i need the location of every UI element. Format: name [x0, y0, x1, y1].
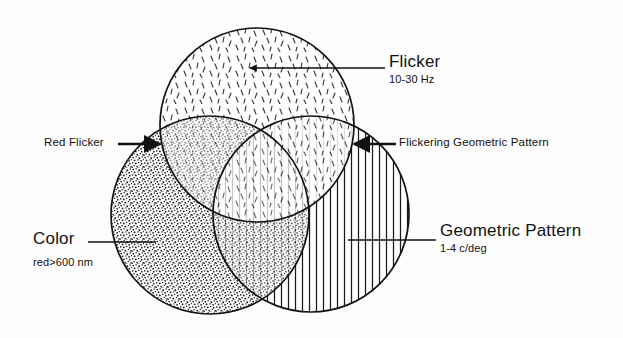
label-flicker-title: Flicker — [389, 53, 440, 71]
label-flickering-geometric-pattern: Flickering Geometric Pattern — [399, 136, 549, 148]
label-geometric-pattern: Geometric Pattern 1-4 c/deg — [440, 222, 581, 254]
label-geometric-pattern-title: Geometric Pattern — [440, 222, 581, 240]
venn-diagram-figure: Flicker 10-30 Hz Geometric Pattern 1-4 c… — [0, 0, 623, 338]
label-color: Color red>600 nm — [33, 230, 93, 268]
label-flicker-sub: 10-30 Hz — [389, 74, 440, 86]
label-red-flicker: Red Flicker — [44, 136, 104, 148]
label-color-title: Color — [33, 230, 93, 248]
venn-diagram-canvas — [0, 0, 623, 338]
label-color-sub: red>600 nm — [33, 257, 93, 269]
label-geometric-pattern-sub: 1-4 c/deg — [440, 243, 581, 255]
label-flicker: Flicker 10-30 Hz — [389, 53, 440, 85]
